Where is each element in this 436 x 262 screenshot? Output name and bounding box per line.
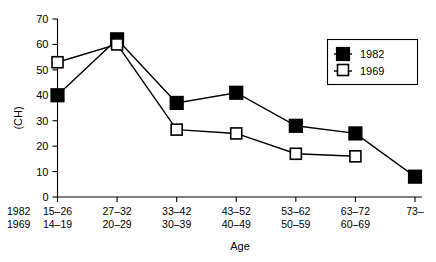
row-head-1969: 1969 <box>7 218 31 230</box>
data-point-filled-square <box>230 86 243 99</box>
data-point-open-square <box>112 39 123 50</box>
legend: 1982 1969 <box>328 40 418 85</box>
data-point-filled-square <box>289 119 302 132</box>
y-tick-label: 60 <box>36 38 48 50</box>
x-category-label-primary: 33–42 <box>162 205 191 217</box>
y-tick-label: 70 <box>36 13 48 25</box>
line-chart: 010203040506070 (CH) 15–2627–3233–4243–5… <box>0 0 436 262</box>
y-tick-label: 30 <box>36 115 48 127</box>
row-head-1982: 1982 <box>7 205 31 217</box>
y-tick-label: 40 <box>36 89 48 101</box>
x-axis-ticks <box>58 197 416 202</box>
data-point-open-square <box>350 151 361 162</box>
y-tick-label: 50 <box>36 64 48 76</box>
data-point-filled-square <box>349 127 362 140</box>
legend-marker-open-square <box>338 65 349 76</box>
data-point-open-square <box>290 148 301 159</box>
y-tick-label: 0 <box>42 191 48 203</box>
chart-container: 010203040506070 (CH) 15–2627–3233–4243–5… <box>0 0 436 262</box>
data-point-open-square <box>231 128 242 139</box>
x-category-label-primary: 15–26 <box>43 205 72 217</box>
x-category-label-primary: 73– <box>406 205 424 217</box>
y-tick-label: 20 <box>36 140 48 152</box>
data-point-filled-square <box>170 96 183 109</box>
legend-label-1982: 1982 <box>360 48 384 60</box>
x-category-label-secondary: 20–29 <box>102 218 131 230</box>
x-category-label-secondary: 50–59 <box>281 218 310 230</box>
data-point-filled-square <box>409 170 422 183</box>
y-tick-label: 10 <box>36 166 48 178</box>
x-category-label-primary: 63–72 <box>341 205 370 217</box>
x-category-label-secondary: 30–39 <box>162 218 191 230</box>
y-axis-tick-labels: 010203040506070 <box>36 13 48 203</box>
x-category-label-primary: 43–52 <box>222 205 251 217</box>
legend-label-1969: 1969 <box>360 65 384 77</box>
x-category-label-secondary: 40–49 <box>222 218 251 230</box>
x-axis-labels-row-1969: 14–1920–2930–3940–4950–5960–69 <box>43 218 370 230</box>
y-axis-title: (CH) <box>12 106 24 129</box>
x-axis-labels-row-1982: 15–2627–3233–4243–5253–6263–7273– <box>43 205 424 217</box>
data-point-open-square <box>52 57 63 68</box>
data-point-open-square <box>171 124 182 135</box>
y-axis-ticks <box>53 19 58 197</box>
legend-marker-filled-square <box>337 48 350 61</box>
x-category-label-primary: 27–32 <box>102 205 131 217</box>
legend-box <box>328 40 418 85</box>
x-category-label-primary: 53–62 <box>281 205 310 217</box>
data-point-filled-square <box>51 89 64 102</box>
series-line-1969 <box>58 44 356 156</box>
x-category-label-secondary: 60–69 <box>341 218 370 230</box>
x-axis-title: Age <box>230 240 250 252</box>
x-category-label-secondary: 14–19 <box>43 218 72 230</box>
